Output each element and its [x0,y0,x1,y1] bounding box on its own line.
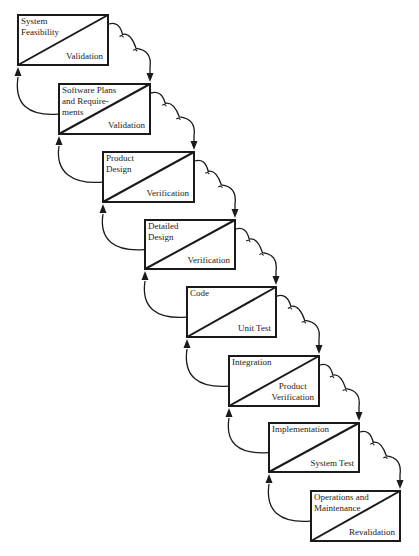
stage-check-label: Unit Test [238,323,271,334]
stage-2: Software Plans and Require- mentsValidat… [58,83,151,135]
feedback-arrow [17,77,58,114]
stage-title: Detailed Design [148,221,179,243]
feedback-arrow [144,281,186,317]
arrowhead-icon [273,276,280,285]
stage-title: Implementation [272,424,329,435]
stage-title: Code [190,288,209,299]
arrowhead-icon [15,67,22,76]
feedback-arrow [268,484,310,521]
arrowhead-icon [356,412,363,421]
arrowhead-icon [100,204,107,213]
arrowhead-icon [184,339,191,348]
forward-arrow [109,23,150,74]
arrowhead-icon [397,480,404,489]
forward-arrow [277,295,319,346]
forward-arrow [236,228,276,277]
feedback-arrow [58,146,102,182]
arrowhead-icon [266,474,273,483]
forward-arrow [151,92,194,142]
stage-check-label: Product Verification [272,381,314,403]
forward-arrow [320,364,359,413]
stage-title: Integration [232,357,272,368]
stage-4: Detailed DesignVerification [144,219,236,270]
stage-check-label: System Test [311,458,354,469]
arrowhead-icon [147,73,154,82]
stage-8: Operations and MaintenanceRevalidation [310,490,401,542]
stage-title: Software Plans and Require- ments [62,85,116,118]
feedback-arrow [102,214,144,250]
arrowhead-icon [191,141,198,150]
arrowhead-icon [316,345,323,354]
stage-7: ImplementationSystem Test [268,422,360,473]
stage-title: System Feasibility [21,16,59,38]
stage-1: System FeasibilityValidation [17,14,109,66]
stage-title: Operations and Maintenance [314,492,369,514]
stage-check-label: Verification [147,188,189,199]
arrowhead-icon [56,136,63,145]
stage-check-label: Revalidation [349,527,395,538]
stage-5: CodeUnit Test [186,286,277,338]
stage-check-label: Validation [66,51,103,62]
arrowhead-icon [142,271,149,280]
forward-arrow [360,431,400,481]
arrowhead-icon [232,209,239,218]
forward-arrow [195,160,235,210]
arrowhead-icon [226,408,233,417]
feedback-arrow [228,418,268,453]
stage-check-label: Verification [188,255,230,266]
stage-6: IntegrationProduct Verification [228,355,320,407]
stage-title: Product Design [106,153,134,175]
waterfall-diagram: System FeasibilityValidationSoftware Pla… [0,0,419,556]
stage-3: Product DesignVerification [102,151,195,203]
stage-check-label: Validation [108,120,145,131]
feedback-arrow [186,349,228,386]
